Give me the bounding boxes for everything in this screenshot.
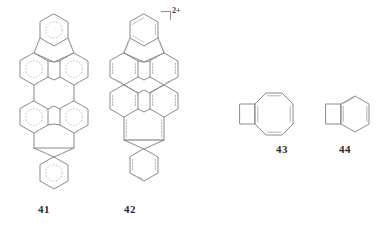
s41-top-cyclopenta xyxy=(34,38,74,62)
s41-bottom-benzene xyxy=(40,157,68,189)
s42-top-cyclopenta xyxy=(123,38,165,62)
s42-top-benzene xyxy=(130,14,158,46)
structure-43 xyxy=(240,93,293,135)
s42-bottom-benzene xyxy=(130,149,158,181)
structure-label-42: 42 xyxy=(110,203,150,215)
s41-upper-central-ring xyxy=(48,61,60,80)
structure-42 xyxy=(110,14,178,181)
structure-label-41: 41 xyxy=(24,203,64,215)
s42-middle-right-benzene xyxy=(150,85,178,117)
s41-lower-central-ring xyxy=(48,106,60,125)
s42-upper-central-ring xyxy=(138,61,150,80)
s41-lower-left-benzene xyxy=(20,101,48,133)
s43-cyclobutadiene-ring xyxy=(240,104,255,124)
charge-label: 2+ xyxy=(172,6,181,15)
structure-canvas xyxy=(0,0,377,236)
charge-annotation: 2+ xyxy=(161,6,195,24)
s43-cyclooctatetraene-ring xyxy=(255,93,293,135)
s41-interring-bonds xyxy=(34,85,74,101)
s44-benzene-ring xyxy=(341,96,369,132)
s42-middle-left-benzene xyxy=(110,85,138,117)
structure-label-43: 43 xyxy=(262,143,302,155)
bracket-corner-icon xyxy=(161,11,171,20)
s41-top-benzene xyxy=(40,14,68,46)
structure-label-44: 44 xyxy=(325,143,365,155)
structure-41 xyxy=(20,14,88,189)
s41-lower-right-benzene xyxy=(60,101,88,133)
s42-middle-central-ring xyxy=(124,85,164,112)
structure-44 xyxy=(326,96,369,132)
s41-bottom-cyclopenta xyxy=(34,133,74,157)
s42-bottom-cyclopenta xyxy=(124,117,164,149)
s44-cyclobutadiene-ring xyxy=(326,104,341,124)
